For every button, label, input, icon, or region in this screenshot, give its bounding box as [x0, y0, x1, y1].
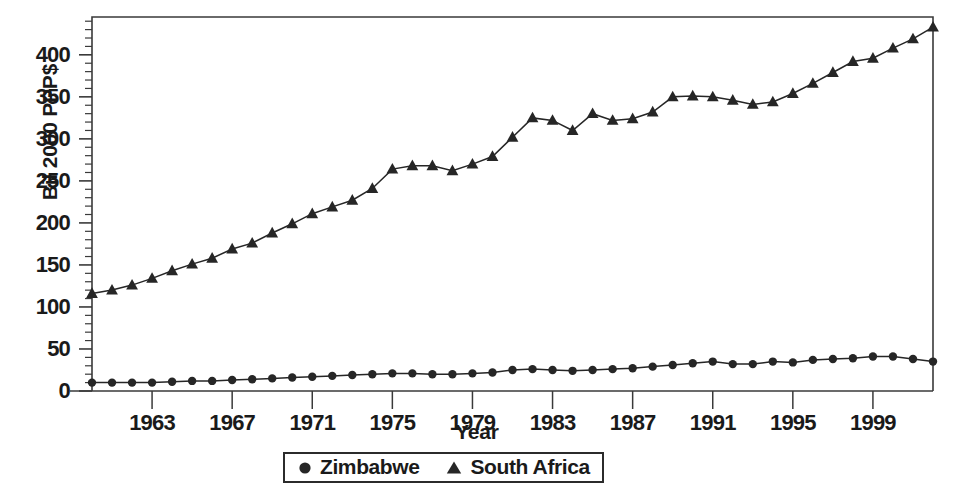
chart-container: Bil 2000 PPP$ Year 050100150200250300350…: [0, 0, 954, 493]
x-tick-label: 1999: [828, 412, 918, 434]
x-tick-label: 1983: [508, 412, 598, 434]
legend-label: Zimbabwe: [320, 456, 419, 477]
data-series-zimbabwe: [88, 352, 937, 386]
x-axis-ticks: [152, 391, 873, 409]
y-tick-label: 300: [8, 128, 70, 150]
x-tick-label: 1963: [107, 412, 197, 434]
y-tick-label: 100: [8, 296, 70, 318]
legend-item-south-africa[interactable]: South Africa: [445, 456, 589, 477]
y-tick-label: 50: [8, 338, 70, 360]
y-tick-label: 150: [8, 254, 70, 276]
y-axis-ticks: [79, 21, 92, 391]
y-tick-label: 350: [8, 86, 70, 108]
legend-label: South Africa: [470, 456, 589, 477]
x-tick-label: 1991: [668, 412, 758, 434]
x-tick-label: 1967: [187, 412, 277, 434]
y-tick-label: 250: [8, 170, 70, 192]
data-series-south-africa: [86, 21, 939, 298]
legend-item-zimbabwe[interactable]: Zimbabwe: [297, 456, 419, 477]
x-tick-label: 1995: [748, 412, 838, 434]
plot-frame: [92, 17, 933, 391]
x-tick-label: 1975: [347, 412, 437, 434]
y-tick-label: 0: [8, 380, 70, 402]
triangle-marker-icon: [445, 459, 463, 475]
x-tick-label: 1987: [588, 412, 678, 434]
x-tick-label: 1979: [427, 412, 517, 434]
y-tick-label: 400: [8, 44, 70, 66]
x-tick-label: 1971: [267, 412, 357, 434]
chart-legend: Zimbabwe South Africa: [283, 452, 604, 483]
y-tick-label: 200: [8, 212, 70, 234]
circle-marker-icon: [297, 459, 313, 475]
